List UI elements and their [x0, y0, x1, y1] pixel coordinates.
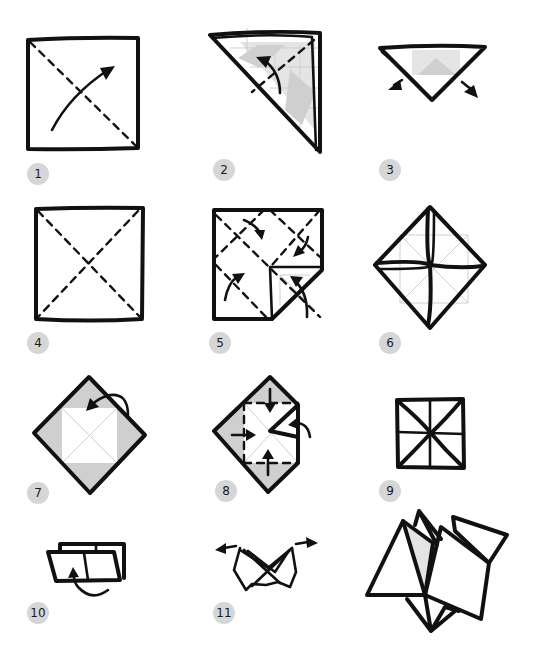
step-number-badge: 8 — [215, 480, 237, 502]
unfold-arrow-right-icon — [306, 537, 318, 548]
step-number-badge: 1 — [27, 163, 49, 185]
step-8: 8 — [190, 365, 350, 510]
step-11: 11 — [190, 510, 350, 653]
fold-arrow-icon — [52, 70, 108, 130]
step-6: 6 — [360, 195, 510, 360]
step-number-badge: 5 — [209, 332, 231, 354]
step-number-badge: 4 — [27, 332, 49, 354]
triangle-fold-illustration — [190, 0, 350, 190]
step-4: 4 — [0, 195, 180, 360]
arrowhead-icon — [254, 230, 265, 240]
step-number-badge: 3 — [379, 159, 401, 181]
step-3: 3 — [360, 30, 510, 190]
step-number-badge: 2 — [213, 159, 235, 181]
fold-corners-again-illustration — [190, 365, 350, 510]
step-number-badge: 10 — [27, 602, 49, 624]
square-with-diagonal-fold-illustration — [0, 0, 180, 190]
fold-in-half-illustration — [0, 510, 190, 653]
step-10: 10 — [0, 510, 190, 653]
step-7: 7 — [0, 365, 180, 510]
step-number-badge: 11 — [213, 602, 235, 624]
step-1: 1 — [0, 0, 180, 190]
step-2: 2 — [190, 0, 350, 190]
fortune-teller-illustration — [355, 495, 535, 653]
step-9: 9 — [360, 380, 510, 510]
finished-fortune-teller — [355, 495, 535, 653]
step-5: 5 — [190, 195, 350, 360]
arrowhead-icon — [290, 276, 303, 287]
arrowhead-icon — [68, 567, 79, 578]
square-with-x-creases-illustration — [0, 195, 180, 360]
pull-flaps-apart-illustration — [190, 510, 350, 653]
step-number-badge: 7 — [27, 482, 49, 504]
step-number-badge: 6 — [379, 332, 401, 354]
unfold-arrow-left-icon — [215, 543, 226, 554]
